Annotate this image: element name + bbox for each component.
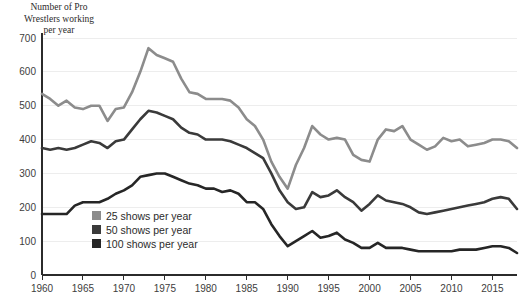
svg-text:2000: 2000 xyxy=(358,283,381,294)
svg-text:1990: 1990 xyxy=(277,283,300,294)
legend-item-25-shows: 25 shows per year xyxy=(92,209,198,222)
legend-label: 100 shows per year xyxy=(106,238,198,250)
svg-text:600: 600 xyxy=(19,66,36,77)
y-axis-ticks: 0100200300400500600700 xyxy=(19,33,36,281)
svg-text:1965: 1965 xyxy=(72,283,95,294)
svg-text:0: 0 xyxy=(30,270,36,281)
svg-text:1975: 1975 xyxy=(154,283,177,294)
legend-item-50-shows: 50 shows per year xyxy=(92,223,198,236)
legend-swatch-icon xyxy=(92,239,101,248)
svg-text:300: 300 xyxy=(19,168,36,179)
svg-text:1985: 1985 xyxy=(236,283,259,294)
svg-text:1960: 1960 xyxy=(31,283,54,294)
svg-text:100: 100 xyxy=(19,236,36,247)
svg-text:2005: 2005 xyxy=(399,283,422,294)
svg-text:400: 400 xyxy=(19,134,36,145)
svg-text:2010: 2010 xyxy=(440,283,463,294)
series-line xyxy=(42,111,517,214)
svg-text:700: 700 xyxy=(19,33,36,44)
series-line xyxy=(42,48,517,189)
x-axis-ticks: 1960196519701975198019851990199520002005… xyxy=(31,275,504,294)
svg-text:1980: 1980 xyxy=(195,283,218,294)
legend-item-100-shows: 100 shows per year xyxy=(92,237,198,250)
legend-label: 25 shows per year xyxy=(106,210,192,222)
chart-legend: 25 shows per year 50 shows per year 100 … xyxy=(92,209,198,251)
legend-swatch-icon xyxy=(92,225,101,234)
svg-text:1995: 1995 xyxy=(318,283,341,294)
svg-text:500: 500 xyxy=(19,100,36,111)
svg-text:200: 200 xyxy=(19,202,36,213)
legend-label: 50 shows per year xyxy=(106,224,192,236)
svg-text:2015: 2015 xyxy=(481,283,504,294)
chart-container: Number of Pro Wrestlers working per year… xyxy=(0,0,523,306)
svg-text:1970: 1970 xyxy=(113,283,136,294)
line-chart-plot: 0100200300400500600700 19601965197019751… xyxy=(0,0,523,306)
legend-swatch-icon xyxy=(92,211,101,220)
